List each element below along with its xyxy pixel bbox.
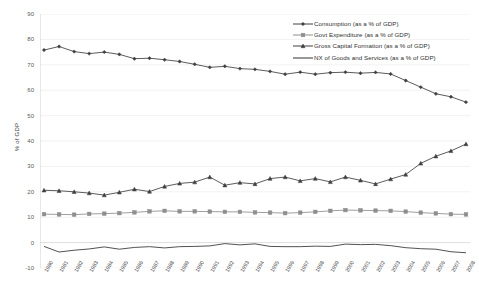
data-point-diamond (283, 72, 286, 75)
data-point-diamond (42, 48, 45, 51)
data-point-square (102, 212, 106, 216)
data-point-diamond (193, 63, 196, 66)
data-point-diamond (103, 50, 106, 53)
data-point-diamond (57, 45, 60, 48)
data-point-diamond (118, 53, 121, 56)
legend-label: Consumption (as a % of GDP) (314, 20, 399, 28)
data-point-diamond (449, 95, 452, 98)
data-point-diamond (344, 70, 347, 73)
data-point-square (42, 212, 46, 216)
data-point-diamond (301, 22, 304, 25)
data-point-square (223, 210, 227, 214)
data-point-triangle (449, 149, 453, 153)
y-tick-label: 30 (12, 163, 34, 169)
data-point-square (268, 211, 272, 215)
legend-marker-triangle-icon (292, 42, 314, 50)
data-point-diamond (389, 72, 392, 75)
data-point-square (464, 213, 468, 217)
data-point-diamond (238, 67, 241, 70)
data-point-diamond (464, 100, 467, 103)
data-point-square (178, 210, 182, 214)
data-point-diamond (359, 71, 362, 74)
data-point-diamond (163, 58, 166, 61)
data-point-square (87, 212, 91, 216)
data-point-square (389, 209, 393, 213)
legend-label: Govt Expenditure (as a % of GDP) (314, 31, 410, 39)
legend-label: NX of Goods and Services (as a % of GDP) (314, 54, 436, 62)
data-point-triangle (343, 175, 347, 179)
legend-item-0[interactable]: Consumption (as a % of GDP) (292, 20, 436, 28)
data-point-triangle (208, 175, 212, 179)
y-tick-label: 50 (12, 113, 34, 119)
data-point-diamond (374, 71, 377, 74)
legend-marker-square-icon (292, 31, 314, 39)
data-point-diamond (133, 57, 136, 60)
series-line (44, 244, 466, 253)
data-point-diamond (404, 79, 407, 82)
data-point-diamond (88, 52, 91, 55)
y-tick-label: 70 (12, 62, 34, 68)
series-1 (42, 208, 468, 216)
data-point-diamond (72, 50, 75, 53)
data-point-diamond (314, 72, 317, 75)
chart-figure: % of GDP 9080706050403020100-10 Consumpt… (0, 0, 479, 304)
data-point-square (359, 209, 363, 213)
data-point-diamond (208, 66, 211, 69)
y-tick-label: 90 (12, 11, 34, 17)
data-point-square (253, 211, 257, 215)
legend-label: Gross Capital Formation (as a % of GDP) (314, 42, 430, 50)
data-point-diamond (253, 68, 256, 71)
data-point-square (148, 210, 152, 214)
data-point-diamond (148, 56, 151, 59)
legend-item-1[interactable]: Govt Expenditure (as a % of GDP) (292, 31, 436, 39)
data-point-square (329, 209, 333, 213)
data-point-square (298, 211, 302, 215)
legend-item-2[interactable]: Gross Capital Formation (as a % of GDP) (292, 42, 436, 50)
y-tick-label: -10 (12, 265, 34, 271)
legend-marker-diamond-icon (292, 20, 314, 28)
data-point-square (72, 213, 76, 217)
data-point-diamond (434, 92, 437, 95)
y-tick-label: 80 (12, 36, 34, 42)
data-point-square (208, 210, 212, 214)
data-point-square (301, 33, 305, 37)
data-point-diamond (223, 65, 226, 68)
data-point-square (163, 209, 167, 213)
y-tick-label: 20 (12, 189, 34, 195)
y-tick-label: 60 (12, 87, 34, 93)
y-tick-label: 0 (12, 240, 34, 246)
data-point-square (419, 211, 423, 215)
data-point-triangle (419, 161, 423, 165)
data-point-diamond (268, 70, 271, 73)
series-3 (44, 244, 466, 253)
data-point-diamond (419, 85, 422, 88)
series-line (44, 144, 466, 195)
y-tick-label: 10 (12, 214, 34, 220)
chart-legend: Consumption (as a % of GDP)Govt Expendit… (292, 20, 436, 62)
data-point-square (57, 213, 61, 217)
data-point-square (238, 210, 242, 214)
legend-item-3[interactable]: NX of Goods and Services (as a % of GDP) (292, 54, 436, 62)
data-point-square (283, 211, 287, 215)
data-point-square (133, 211, 137, 215)
y-tick-label: 40 (12, 138, 34, 144)
data-point-diamond (329, 71, 332, 74)
data-point-square (118, 211, 122, 215)
x-axis-tick-labels: 1980198119821983198419851986198719881989… (40, 268, 470, 294)
data-point-square (449, 212, 453, 216)
data-point-triangle (464, 142, 468, 146)
data-point-diamond (299, 70, 302, 73)
data-point-square (374, 209, 378, 213)
data-point-diamond (178, 60, 181, 63)
data-point-square (434, 212, 438, 216)
data-point-square (313, 210, 317, 214)
legend-marker-none-icon (292, 54, 314, 62)
data-point-square (193, 210, 197, 214)
data-point-square (344, 208, 348, 212)
series-2 (42, 142, 468, 197)
data-point-square (404, 210, 408, 214)
